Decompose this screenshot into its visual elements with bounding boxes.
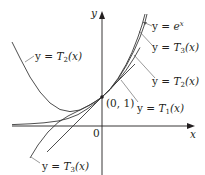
- curves: [12, 14, 147, 158]
- leader-t2-left: [25, 56, 34, 62]
- axes: [12, 11, 195, 175]
- leader-t3-lower: [31, 157, 40, 163]
- label-t2-right: y = T2(x): [151, 75, 199, 89]
- label-t3-upper: y = T3(x): [151, 41, 199, 55]
- y-axis-arrow-icon: [99, 11, 105, 19]
- taylor-polynomials-diagram: y x 0 (0, 1) y = ex y = T3(x) y = T2(x) …: [0, 0, 205, 175]
- x-axis-label: x: [190, 128, 196, 140]
- y-axis-label: y: [90, 7, 98, 19]
- point-0-1: [100, 95, 104, 99]
- label-t3-lower: y = T3(x): [41, 160, 89, 174]
- label-exp: y = ex: [151, 20, 184, 32]
- t3-curve: [30, 14, 147, 158]
- point-label: (0, 1): [106, 97, 134, 109]
- label-t1: y = T1(x): [136, 102, 184, 116]
- label-t2-left: y = T2(x): [34, 50, 82, 64]
- origin-label: 0: [93, 127, 100, 139]
- leader-t3-upper: [139, 31, 152, 45]
